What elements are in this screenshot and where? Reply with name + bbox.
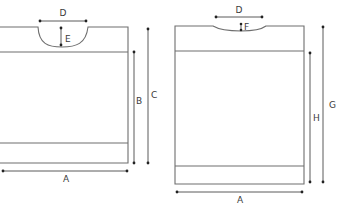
front-label-c: C xyxy=(151,90,157,100)
front-dimension-a: A xyxy=(2,170,129,184)
back-dimension-f: F xyxy=(240,22,249,32)
back-dimension-d: D xyxy=(215,5,264,18)
back-label-g: G xyxy=(329,100,336,110)
front-dimension-d: D xyxy=(39,8,88,22)
garment-diagram: D E B C A D xyxy=(0,0,340,210)
front-label-a: A xyxy=(63,174,70,184)
back-label-a: A xyxy=(237,195,244,205)
back-label-f: F xyxy=(244,22,249,32)
front-label-b: B xyxy=(136,96,142,106)
back-outline xyxy=(175,26,304,184)
front-dimension-b: B xyxy=(133,51,143,165)
front-dimension-e: E xyxy=(60,27,71,47)
back-dimension-g: G xyxy=(322,26,336,184)
back-piece xyxy=(175,26,304,184)
front-piece xyxy=(0,27,128,163)
back-label-h: H xyxy=(313,113,320,123)
front-dimension-c: C xyxy=(147,28,158,165)
back-dimension-a: A xyxy=(176,191,304,205)
back-label-d: D xyxy=(236,5,243,15)
back-dimension-h: H xyxy=(309,52,320,184)
front-label-d: D xyxy=(60,8,67,18)
front-label-e: E xyxy=(65,34,71,44)
